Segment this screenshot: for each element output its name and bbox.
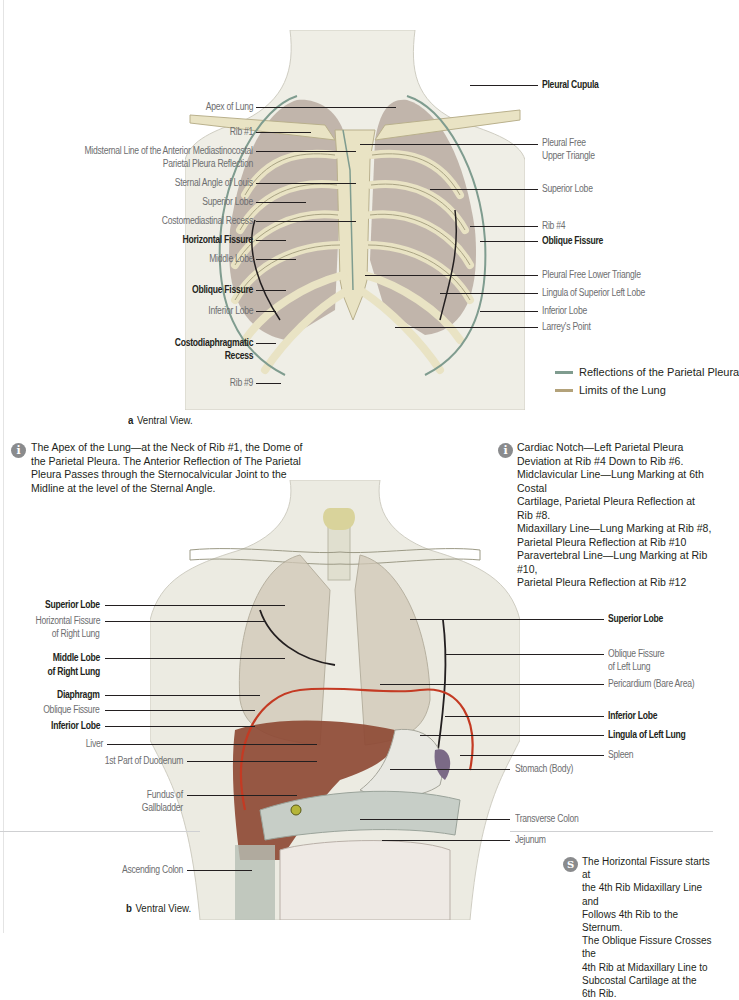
label-1st-part-duodenum: 1st Part of Duodenum bbox=[104, 755, 183, 767]
label-pleural-free: Pleural Free bbox=[542, 137, 586, 149]
label-of-left-lung: of Left Lung bbox=[608, 661, 650, 673]
label-horizontal-fissure-b: Horizontal Fissure bbox=[35, 615, 100, 627]
leader-line bbox=[470, 226, 538, 227]
note-line: Midaxillary Line—Lung Marking at Rib #8, bbox=[517, 522, 713, 536]
leader-line bbox=[360, 819, 510, 820]
label-transverse-colon: Transverse Colon bbox=[515, 813, 578, 825]
label-superior-lobe-a-right: Superior Lobe bbox=[542, 183, 593, 195]
label-inferior-lobe-b-right: Inferior Lobe bbox=[608, 710, 657, 722]
label-upper-triangle: Upper Triangle bbox=[542, 150, 595, 162]
leader-line bbox=[256, 311, 276, 312]
leader-line bbox=[460, 755, 604, 756]
legend-swatch-pleura bbox=[555, 371, 573, 374]
caption-letter: a bbox=[128, 414, 133, 426]
figure-b-caption: bVentral View. bbox=[126, 902, 191, 914]
leader-line bbox=[256, 107, 396, 108]
note-line: The Horizontal Fissure starts at bbox=[582, 855, 713, 881]
leader-line bbox=[390, 769, 510, 770]
leader-line bbox=[430, 189, 538, 190]
caption-letter: b bbox=[126, 902, 132, 914]
label-diaphragm: Diaphragm bbox=[57, 689, 100, 701]
legend-item-parietal-pleura: Reflections of the Parietal Pleura bbox=[555, 366, 739, 378]
label-pericardium: Pericardium (Bare Area) bbox=[608, 678, 694, 690]
legend-swatch-lung bbox=[555, 389, 573, 392]
label-jejunum: Jejunum bbox=[515, 834, 546, 846]
fissure-note: The Horizontal Fissure starts at the 4th… bbox=[582, 855, 713, 1000]
leader-line bbox=[256, 290, 286, 291]
leader-line bbox=[105, 605, 285, 606]
leader-line bbox=[187, 795, 297, 796]
label-stomach-body: Stomach (Body) bbox=[515, 763, 573, 775]
label-pleural-free-lower-triangle: Pleural Free Lower Triangle bbox=[542, 269, 641, 281]
label-sternal-angle: Sternal Angle of Louis bbox=[175, 177, 253, 189]
leader-line bbox=[105, 710, 255, 711]
note-line: Deviation at Rib #4 Down to Rib #6. bbox=[517, 455, 713, 469]
figure-a-caption: aVentral View. bbox=[128, 414, 193, 426]
leader-line bbox=[105, 695, 260, 696]
section-divider bbox=[0, 831, 200, 832]
label-rib-4: Rib #4 bbox=[542, 220, 565, 232]
leader-line bbox=[395, 327, 538, 328]
page-margin-rule bbox=[3, 0, 4, 933]
figure-b-torso-illustration bbox=[150, 480, 520, 920]
section-divider bbox=[510, 831, 713, 832]
leader-line bbox=[105, 726, 255, 727]
label-recess: Recess bbox=[224, 350, 253, 362]
label-inferior-lobe-b-left: Inferior Lobe bbox=[51, 720, 100, 732]
label-of-right-lung: of Right Lung bbox=[52, 628, 100, 640]
leader-line bbox=[445, 716, 604, 717]
leader-line bbox=[107, 744, 317, 745]
label-inferior-lobe-a-left: Inferior Lobe bbox=[208, 305, 253, 317]
leader-line bbox=[480, 241, 538, 242]
label-rib-1: Rib #1 bbox=[230, 126, 253, 138]
label-superior-lobe-b-left: Superior Lobe bbox=[45, 599, 100, 611]
label-superior-lobe-a-left: Superior Lobe bbox=[202, 196, 253, 208]
label-middle-lobe: Middle Lobe bbox=[209, 253, 253, 265]
note-line: Parietal Pleura Reflection at Rib #10 bbox=[517, 536, 713, 550]
caption-text: Ventral View. bbox=[135, 902, 191, 914]
label-parietal-pleura-reflection: Parietal Pleura Reflection bbox=[163, 158, 253, 170]
info-icon: i bbox=[498, 443, 513, 458]
label-oblique-fissure-b-left: Oblique Fissure bbox=[44, 704, 100, 716]
leader-line bbox=[187, 870, 252, 871]
label-oblique-fissure-left-lung: Oblique Fissure bbox=[608, 648, 664, 660]
leader-line bbox=[256, 259, 296, 260]
note-line: Follows 4th Rib to the Sternum. bbox=[582, 908, 713, 934]
leader-line bbox=[256, 132, 311, 133]
leader-line bbox=[256, 151, 356, 152]
leader-line bbox=[440, 293, 538, 294]
label-middle-lobe-right-lung: Middle Lobe bbox=[53, 652, 100, 664]
leader-line bbox=[105, 658, 285, 659]
label-gallbladder: Gallbladder bbox=[142, 802, 183, 814]
leader-line bbox=[187, 761, 317, 762]
leader-line bbox=[380, 684, 604, 685]
leader-line bbox=[256, 383, 281, 384]
label-inferior-lobe-a-right: Inferior Lobe bbox=[542, 305, 587, 317]
leader-line bbox=[420, 735, 604, 736]
leader-line bbox=[382, 840, 510, 841]
label-costomediastinal-recess: Costomediastinal Recess bbox=[162, 215, 253, 227]
note-line: the 4th Rib Midaxillary Line and bbox=[582, 881, 713, 907]
leader-line bbox=[365, 275, 538, 276]
note-line: 4th Rib at Midaxillary Line to bbox=[582, 961, 713, 974]
label-superior-lobe-b-right: Superior Lobe bbox=[608, 613, 663, 625]
leader-line bbox=[445, 654, 604, 655]
label-middle-lobe-of-right-lung: of Right Lung bbox=[47, 666, 100, 678]
info-icon: i bbox=[11, 443, 26, 458]
legend-item-lung-limits: Limits of the Lung bbox=[555, 384, 666, 396]
label-lingula-left-lung: Lingula of Left Lung bbox=[608, 729, 685, 741]
label-ascending-colon: Ascending Colon bbox=[122, 864, 183, 876]
legend-label: Limits of the Lung bbox=[579, 384, 666, 396]
label-horizontal-fissure: Horizontal Fissure bbox=[183, 234, 253, 246]
leader-line bbox=[470, 85, 538, 86]
note-line: Cardiac Notch—Left Parietal Pleura bbox=[517, 441, 713, 455]
leader-line bbox=[410, 619, 604, 620]
label-fundus-of: Fundus of bbox=[147, 789, 183, 801]
note-line: Parietal Pleura Reflection at Rib #12 bbox=[517, 576, 713, 590]
leader-line bbox=[105, 621, 265, 622]
note-line: Cartilage, Parietal Pleura Reflection at… bbox=[517, 495, 713, 522]
label-lingula-superior-left-lobe: Lingula of Superior Left Lobe bbox=[542, 287, 645, 299]
label-spleen: Spleen bbox=[608, 749, 633, 761]
legend-label: Reflections of the Parietal Pleura bbox=[579, 366, 739, 378]
leader-line bbox=[256, 343, 276, 344]
